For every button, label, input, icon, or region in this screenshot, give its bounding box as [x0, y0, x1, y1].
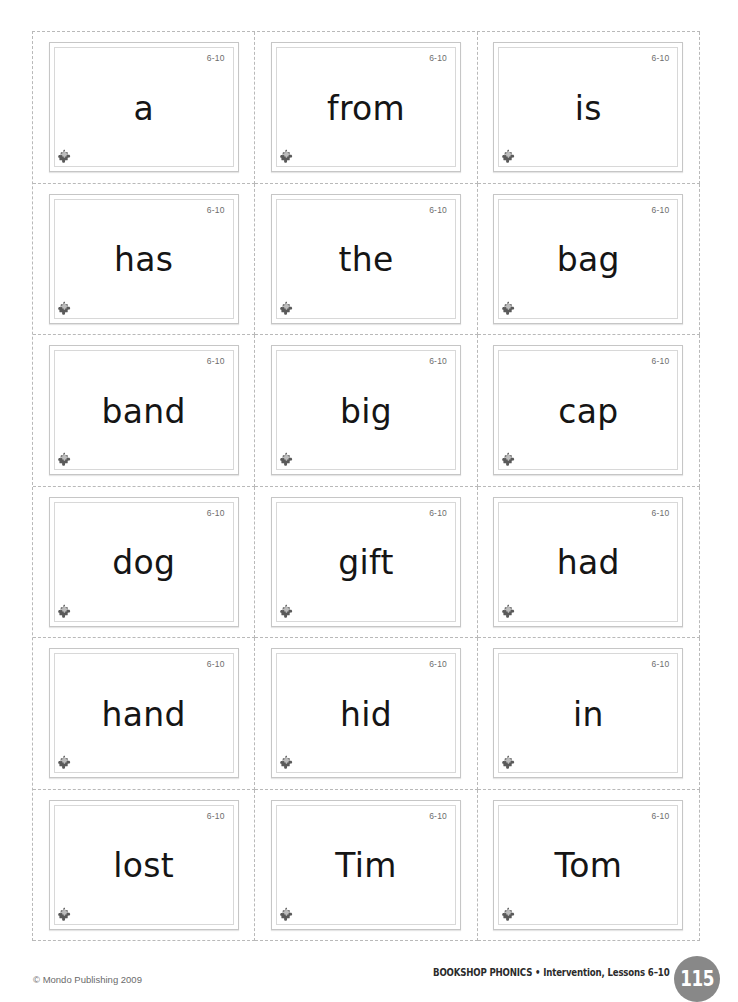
card-lesson-label: 6-10 — [652, 508, 670, 518]
puzzle-piece-icon — [501, 603, 518, 620]
word-card[interactable]: 6-10band — [49, 345, 239, 475]
puzzle-piece-icon — [279, 148, 296, 165]
puzzle-piece-icon — [57, 754, 74, 771]
card-word-text: the — [338, 243, 393, 276]
card-word-text: lost — [113, 849, 174, 882]
word-card[interactable]: 6-10hid — [271, 648, 461, 778]
card-word-text: in — [573, 698, 604, 731]
page-footer: © Mondo Publishing 2009 BOOKSHOP PHONICS… — [0, 947, 738, 993]
card-cell: 6-10the — [255, 184, 477, 336]
word-card[interactable]: 6-10Tim — [271, 800, 461, 930]
card-word-text: big — [340, 395, 392, 428]
puzzle-piece-icon — [57, 906, 74, 923]
card-lesson-label: 6-10 — [652, 205, 670, 215]
puzzle-piece-icon — [501, 300, 518, 317]
card-inner-frame: 6-10lost — [54, 805, 234, 925]
card-cell: 6-10has — [33, 184, 255, 336]
puzzle-piece-icon — [279, 300, 296, 317]
puzzle-piece-icon — [501, 906, 518, 923]
footer-right-group: BOOKSHOP PHONICS • Intervention, Lessons… — [380, 956, 720, 988]
card-word-text: dog — [112, 546, 175, 579]
card-word-text: bag — [557, 243, 620, 276]
word-card[interactable]: 6-10the — [271, 194, 461, 324]
card-lesson-label: 6-10 — [429, 811, 447, 821]
card-word-text: band — [102, 395, 186, 428]
puzzle-piece-icon — [501, 451, 518, 468]
card-inner-frame: 6-10cap — [498, 350, 678, 470]
card-word-text: hid — [340, 698, 392, 731]
card-lesson-label: 6-10 — [652, 659, 670, 669]
card-lesson-label: 6-10 — [207, 53, 225, 63]
word-card[interactable]: 6-10from — [271, 42, 461, 172]
card-cell: 6-10hid — [255, 638, 477, 790]
puzzle-piece-icon — [57, 451, 74, 468]
card-word-text: gift — [338, 546, 393, 579]
card-cell: 6-10hand — [33, 638, 255, 790]
card-inner-frame: 6-10dog — [54, 502, 234, 622]
card-lesson-label: 6-10 — [207, 356, 225, 366]
card-lesson-label: 6-10 — [652, 811, 670, 821]
card-inner-frame: 6-10bag — [498, 199, 678, 319]
page-number-text: 115 — [680, 967, 714, 991]
card-word-text: is — [575, 92, 602, 125]
card-cell: 6-10band — [33, 335, 255, 487]
card-cell: 6-10from — [255, 32, 477, 184]
card-cell: 6-10had — [478, 487, 700, 639]
card-inner-frame: 6-10a — [54, 47, 234, 167]
card-inner-frame: 6-10in — [498, 653, 678, 773]
word-card[interactable]: 6-10is — [493, 42, 683, 172]
card-inner-frame: 6-10had — [498, 502, 678, 622]
card-lesson-label: 6-10 — [429, 508, 447, 518]
card-word-text: Tom — [554, 849, 622, 882]
card-cell: 6-10cap — [478, 335, 700, 487]
card-cell: 6-10Tim — [255, 790, 477, 942]
card-lesson-label: 6-10 — [429, 356, 447, 366]
card-word-text: a — [133, 92, 154, 125]
card-inner-frame: 6-10has — [54, 199, 234, 319]
word-card[interactable]: 6-10hand — [49, 648, 239, 778]
word-card[interactable]: 6-10gift — [271, 497, 461, 627]
puzzle-piece-icon — [279, 451, 296, 468]
series-title: BOOKSHOP PHONICS • Intervention, Lessons… — [433, 966, 674, 978]
word-card[interactable]: 6-10in — [493, 648, 683, 778]
card-inner-frame: 6-10Tom — [498, 805, 678, 925]
word-card[interactable]: 6-10Tom — [493, 800, 683, 930]
card-cell: 6-10big — [255, 335, 477, 487]
copyright-text: © Mondo Publishing 2009 — [33, 974, 142, 985]
puzzle-piece-icon — [57, 300, 74, 317]
word-card[interactable]: 6-10cap — [493, 345, 683, 475]
card-inner-frame: 6-10from — [276, 47, 456, 167]
word-card[interactable]: 6-10a — [49, 42, 239, 172]
puzzle-piece-icon — [279, 754, 296, 771]
card-word-text: has — [114, 243, 173, 276]
word-card[interactable]: 6-10had — [493, 497, 683, 627]
word-card[interactable]: 6-10has — [49, 194, 239, 324]
card-lesson-label: 6-10 — [429, 659, 447, 669]
word-card[interactable]: 6-10lost — [49, 800, 239, 930]
card-lesson-label: 6-10 — [207, 811, 225, 821]
card-cell: 6-10Tom — [478, 790, 700, 942]
puzzle-piece-icon — [501, 148, 518, 165]
card-word-text: hand — [102, 698, 186, 731]
puzzle-piece-icon — [501, 754, 518, 771]
card-inner-frame: 6-10hid — [276, 653, 456, 773]
card-inner-frame: 6-10big — [276, 350, 456, 470]
card-cell: 6-10in — [478, 638, 700, 790]
page-number-badge: 115 — [674, 956, 720, 1002]
puzzle-piece-icon — [57, 148, 74, 165]
card-word-text: Tim — [335, 849, 396, 882]
card-cell: 6-10bag — [478, 184, 700, 336]
card-lesson-label: 6-10 — [652, 53, 670, 63]
card-inner-frame: 6-10gift — [276, 502, 456, 622]
cut-line-grid: 6-10a6-10from6-10is6-10has6-10the6-10bag… — [32, 31, 700, 941]
card-lesson-label: 6-10 — [429, 53, 447, 63]
card-inner-frame: 6-10hand — [54, 653, 234, 773]
word-card[interactable]: 6-10dog — [49, 497, 239, 627]
word-card[interactable]: 6-10big — [271, 345, 461, 475]
card-inner-frame: 6-10the — [276, 199, 456, 319]
word-card[interactable]: 6-10bag — [493, 194, 683, 324]
card-lesson-label: 6-10 — [207, 205, 225, 215]
card-cell: 6-10gift — [255, 487, 477, 639]
card-lesson-label: 6-10 — [207, 659, 225, 669]
card-lesson-label: 6-10 — [207, 508, 225, 518]
